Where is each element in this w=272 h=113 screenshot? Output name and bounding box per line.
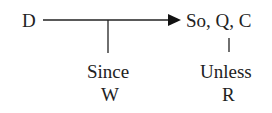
arrow-head-icon [168, 14, 181, 26]
rebuttal-node: R [222, 85, 235, 104]
data-node: D [22, 11, 36, 30]
rebuttal-label: Unless [200, 62, 252, 81]
warrant-label: Since [87, 62, 129, 81]
warrant-node: W [101, 85, 119, 104]
claim-node: So, Q, C [186, 11, 251, 30]
